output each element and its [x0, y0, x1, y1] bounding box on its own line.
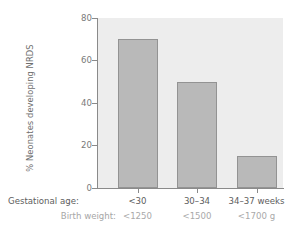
x-tick-mark-1 [138, 189, 139, 193]
gestational-age-value-1: <30 [107, 194, 169, 208]
birth-weight-row-title: Birth weight: [8, 209, 116, 223]
bar-chart-figure: % Neonates developing NRDS 80 60 40 20 0… [0, 0, 292, 233]
y-tick-label-60: 60 [70, 56, 92, 65]
gestational-age-value-3: 34–37 weeks [226, 194, 288, 208]
y-axis-title: % Neonates developing NRDS [25, 23, 35, 193]
gestational-age-row-title: Gestational age: [8, 194, 116, 208]
x-tick-mark-2 [197, 189, 198, 193]
gestational-age-row: Gestational age: <30 30–34 34–37 weeks [0, 194, 292, 210]
y-tick-label-40: 40 [70, 99, 92, 108]
plot-area [98, 18, 283, 188]
y-tick-label-0: 0 [70, 184, 92, 193]
x-tick-mark-3 [257, 189, 258, 193]
birth-weight-row: Birth weight: <1250 <1500 <1700 g [0, 209, 292, 225]
x-axis-label-table: Gestational age: <30 30–34 34–37 weeks B… [0, 194, 292, 233]
x-axis-line [92, 188, 284, 189]
bar-gestational-34-37 [237, 156, 277, 188]
birth-weight-value-1: <1250 [107, 209, 169, 223]
y-tick-label-80: 80 [70, 14, 92, 23]
bar-gestational-under-30 [118, 39, 158, 188]
bar-gestational-30-34 [177, 82, 217, 188]
birth-weight-value-3: <1700 g [226, 209, 288, 223]
gestational-age-value-2: 30–34 [166, 194, 228, 208]
birth-weight-value-2: <1500 [166, 209, 228, 223]
y-axis-line [97, 18, 98, 189]
y-tick-label-20: 20 [70, 141, 92, 150]
